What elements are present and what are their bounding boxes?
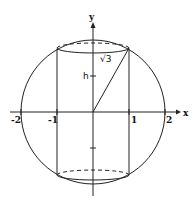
x-axis-label: x [183, 108, 189, 118]
diagram-canvas: y x -2 -1 1 2 h √3 [0, 0, 196, 206]
x-tick-label-neg2: -2 [11, 115, 21, 125]
x-tick-label-2: 2 [166, 115, 172, 125]
x-tick-label-1: 1 [131, 115, 137, 125]
x-axis-arrow-icon [176, 110, 181, 115]
sqrt3-label: √3 [100, 54, 111, 64]
x-tick-label-neg1: -1 [48, 115, 58, 125]
y-axis-arrow-icon [91, 22, 96, 28]
y-axis-label: y [88, 12, 95, 22]
height-label: h [83, 71, 89, 81]
